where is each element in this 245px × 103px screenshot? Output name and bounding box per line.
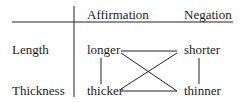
- row-label-thickness: Thickness: [12, 84, 65, 98]
- header-affirmation: Affirmation: [87, 8, 149, 22]
- term-longer: longer: [87, 43, 120, 57]
- term-thicker: thicker: [87, 84, 123, 98]
- row-label-length: Length: [12, 43, 49, 57]
- term-thinner: thinner: [184, 84, 221, 98]
- term-shorter: shorter: [184, 43, 220, 57]
- diagram: Affirmation Negation Length longer short…: [0, 0, 245, 103]
- header-negation: Negation: [184, 8, 232, 22]
